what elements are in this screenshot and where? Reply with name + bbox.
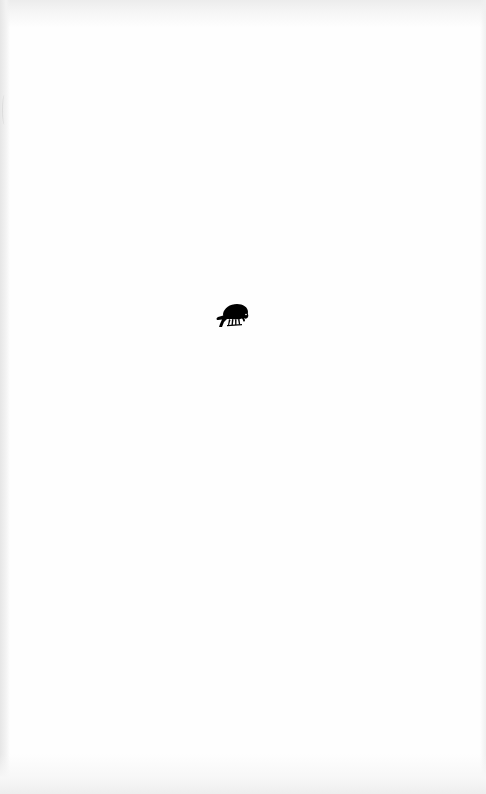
crow-ornament-icon	[214, 300, 250, 330]
scan-shadow-right	[480, 0, 486, 794]
book-page	[0, 0, 486, 794]
page-curl-mark	[2, 95, 7, 125]
scan-shadow-bottom	[0, 754, 486, 794]
scan-shadow-top	[0, 0, 486, 28]
